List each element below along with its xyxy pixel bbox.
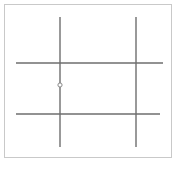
diagram-canvas	[0, 0, 181, 169]
line-diagram	[0, 0, 181, 169]
lines-group	[16, 17, 163, 147]
nodes-group	[58, 83, 62, 87]
circle-node	[58, 83, 62, 87]
